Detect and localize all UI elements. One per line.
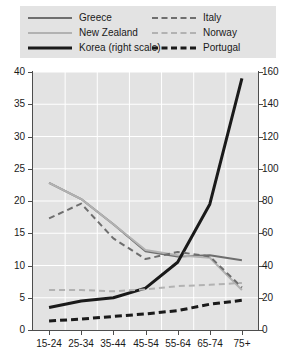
- legend-item-norway[interactable]: Norway: [152, 25, 240, 40]
- y-axis-right-label: 40: [262, 261, 292, 271]
- y-axis-left-label: 35: [1, 99, 25, 109]
- x-axis-tick: [210, 331, 211, 335]
- legend-item-label: Greece: [79, 13, 112, 23]
- y-axis-left-label: 15: [1, 228, 25, 238]
- x-axis-tick: [146, 331, 147, 335]
- y-axis-left-tick: [28, 298, 32, 299]
- x-axis-tick: [49, 331, 50, 335]
- y-axis-right-label: 20: [262, 293, 292, 303]
- y-axis-left-tick: [28, 72, 32, 73]
- y-axis-left-tick: [28, 266, 32, 267]
- legend-item-portugal[interactable]: Portugal: [152, 40, 240, 55]
- legend-item-label: Korea (right scale): [79, 43, 161, 53]
- legend-item-label: New Zealand: [79, 28, 138, 38]
- y-axis-left-tick: [28, 137, 32, 138]
- legend-swatch-icon: [28, 28, 72, 38]
- chart-legend: GreeceNew ZealandKorea (right scale) Ita…: [20, 6, 276, 58]
- y-axis-left-tick: [28, 233, 32, 234]
- y-axis-left-label: 5: [1, 293, 25, 303]
- y-axis-left-tick: [28, 201, 32, 202]
- legend-item-label: Portugal: [203, 43, 240, 53]
- x-axis-tick: [242, 331, 243, 335]
- legend-column-left: GreeceNew ZealandKorea (right scale): [28, 10, 161, 55]
- legend-item-label: Norway: [203, 28, 237, 38]
- legend-swatch-icon: [152, 43, 196, 53]
- y-axis-left-label: 10: [1, 261, 25, 271]
- series-line-new-zealand: [49, 183, 242, 290]
- legend-column-right: ItalyNorwayPortugal: [152, 10, 240, 55]
- x-axis-tick: [113, 331, 114, 335]
- legend-swatch-icon: [152, 28, 196, 38]
- y-axis-left-label: 40: [1, 67, 25, 77]
- y-axis-right-label: 120: [262, 132, 292, 142]
- legend-item-korea-right-scale[interactable]: Korea (right scale): [28, 40, 161, 55]
- legend-swatch-icon: [28, 13, 72, 23]
- y-axis-left-line: [32, 71, 33, 331]
- x-axis-tick: [81, 331, 82, 335]
- y-axis-right-label: 160: [262, 67, 292, 77]
- plot-area: [33, 72, 258, 330]
- y-axis-left-tick: [28, 330, 32, 331]
- y-axis-right-label: 80: [262, 196, 292, 206]
- chart-container: GreeceNew ZealandKorea (right scale) Ita…: [0, 0, 295, 361]
- legend-item-new-zealand[interactable]: New Zealand: [28, 25, 161, 40]
- y-axis-right-label: 140: [262, 99, 292, 109]
- legend-item-greece[interactable]: Greece: [28, 10, 161, 25]
- series-line-portugal: [49, 300, 242, 321]
- series-line-italy: [49, 204, 242, 288]
- y-axis-right-label: 60: [262, 228, 292, 238]
- x-axis-label: 75+: [220, 339, 264, 349]
- legend-swatch-icon: [152, 13, 196, 23]
- y-axis-right-label: 0: [262, 325, 292, 335]
- y-axis-left-tick: [28, 104, 32, 105]
- y-axis-left-label: 30: [1, 132, 25, 142]
- plot-svg: [33, 72, 258, 330]
- y-axis-left-label: 20: [1, 196, 25, 206]
- y-axis-left-label: 0: [1, 325, 25, 335]
- series-line-korea-right-scale: [49, 78, 242, 307]
- legend-swatch-icon: [28, 43, 72, 53]
- y-axis-left-label: 25: [1, 164, 25, 174]
- legend-item-label: Italy: [203, 13, 221, 23]
- y-axis-left-tick: [28, 169, 32, 170]
- legend-item-italy[interactable]: Italy: [152, 10, 240, 25]
- x-axis-tick: [178, 331, 179, 335]
- y-axis-right-label: 100: [262, 164, 292, 174]
